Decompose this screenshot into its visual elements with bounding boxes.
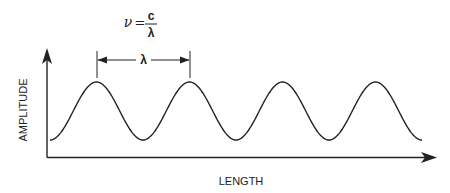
sine-wave [50, 82, 422, 140]
y-axis [42, 48, 52, 158]
formula-numerator: c [148, 9, 155, 23]
formula-frequency-symbol: ν [124, 14, 133, 30]
wave-diagram: λ ν = c λ AMPLITUDE LENGTH [0, 0, 450, 193]
dimension-arrow-left-icon [98, 57, 108, 64]
wavelength-label: λ [140, 53, 147, 67]
formula: ν = c λ [124, 9, 157, 40]
formula-denominator: λ [148, 26, 155, 40]
y-axis-label: AMPLITUDE [17, 79, 29, 142]
x-axis [47, 152, 437, 163]
x-axis-label: LENGTH [219, 175, 264, 187]
formula-equals: = [135, 15, 146, 30]
wavelength-dimension: λ [97, 51, 190, 78]
dimension-arrow-right-icon [180, 57, 190, 64]
